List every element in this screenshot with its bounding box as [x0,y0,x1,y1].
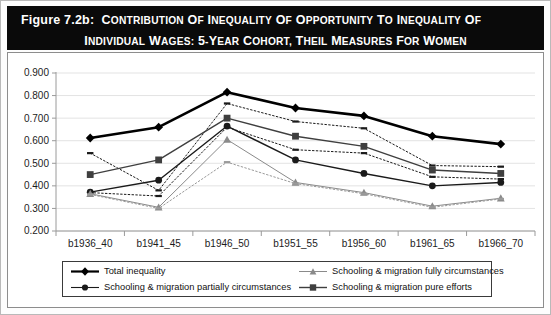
data-point-marker [428,132,437,141]
legend-item-partially-circumstances[interactable]: Schooling & migration partially circumst… [70,281,291,294]
data-point-marker [429,206,435,208]
data-point-marker [429,167,436,174]
data-point-marker [154,123,163,132]
data-point-marker [361,127,367,129]
data-point-marker [498,198,504,200]
figure-title-text-2: INDIVIDUAL WAGES: 5-YEAR COHORT, THEIL M… [84,34,466,48]
data-point-marker [155,177,162,184]
y-axis-tick-label: 0.700 [24,113,49,124]
legend-item-total-inequality[interactable]: Total inequality [70,265,291,278]
data-point-marker [155,195,161,197]
y-axis-tick-label: 0.600 [24,135,49,146]
legend-label-0: Total inequality [100,266,166,276]
y-axis-tick-label: 0.300 [24,203,49,214]
data-point-marker [224,102,230,104]
series-2 [87,115,504,178]
x-axis-tick-label: b1956_60 [342,238,387,249]
series-1 [87,102,504,191]
legend-column-left: Total inequality Schooling & migration p… [63,262,291,296]
x-axis-tick-label: b1936_40 [68,238,113,249]
y-axis-tick-label: 0.400 [24,180,49,191]
data-point-marker [291,104,300,113]
legend-label-2: Schooling & migration fully circumstance… [328,266,504,276]
data-point-marker [223,136,231,143]
data-point-marker [292,120,298,122]
data-point-marker [292,133,299,140]
legend-label-1: Schooling & migration partially circumst… [100,282,291,292]
y-axis-tick-label: 0.500 [24,158,49,169]
chart-legend: Total inequality Schooling & migration p… [62,261,492,297]
data-point-marker [360,111,369,120]
data-point-marker [87,152,93,154]
figure-title-text-1: CONTRIBUTION OF INEQUALITY OF OPPORTUNIT… [98,13,481,27]
circle-icon [70,282,100,293]
legend-item-fully-circumstances[interactable]: Schooling & migration fully circumstance… [298,265,504,278]
series-5 [86,136,504,211]
line-chart: 0.9000.8000.7000.6000.5000.4000.3000.200… [8,53,545,258]
data-point-marker [361,143,368,150]
figure-number-label: Figure 7.2b: [21,13,94,27]
data-point-marker [155,189,161,191]
data-point-marker [361,170,368,177]
figure-title-line-1: Figure 7.2b: CONTRIBUTION OF INEQUALITY … [17,10,534,31]
chart-panel: 0.9000.8000.7000.6000.5000.4000.3000.200… [7,52,544,308]
data-point-marker [429,176,435,178]
data-point-marker [497,170,504,177]
data-point-marker [429,164,435,166]
data-point-marker [497,179,504,186]
y-axis-tick-label: 0.800 [24,90,49,101]
square-icon [298,282,328,293]
data-point-marker [224,123,231,130]
data-point-marker [155,157,162,164]
figure-title-line-2: INDIVIDUAL WAGES: 5-YEAR COHORT, THEIL M… [17,31,534,52]
x-axis-tick-label: b1951_55 [273,238,318,249]
x-axis-tick-label: b1961_65 [410,238,455,249]
figure-container: Figure 7.2b: CONTRIBUTION OF INEQUALITY … [0,0,551,315]
data-point-marker [224,161,230,163]
data-point-marker [155,207,161,209]
x-axis-tick-label: b1946_50 [205,238,250,249]
data-point-marker [361,152,367,154]
triangle-icon [298,266,328,277]
x-axis-tick-label: b1966_70 [479,238,524,249]
diamond-icon [70,266,100,277]
data-point-marker [87,171,94,178]
data-point-marker [498,166,504,168]
data-point-marker [361,193,367,195]
data-point-marker [292,149,298,151]
data-point-marker [87,193,93,195]
data-point-marker [292,183,298,185]
data-point-marker [292,157,299,164]
x-axis-tick-label: b1941_45 [136,238,181,249]
data-point-marker [224,115,231,122]
legend-column-right: Schooling & migration fully circumstance… [291,262,504,296]
legend-item-pure-efforts[interactable]: Schooling & migration pure efforts [298,281,504,294]
y-axis-tick-label: 0.200 [24,225,49,236]
plot-area: 0.9000.8000.7000.6000.5000.4000.3000.200… [8,53,545,258]
legend-label-3: Schooling & migration pure efforts [328,282,472,292]
data-point-marker [429,182,436,189]
y-axis-tick-label: 0.900 [24,67,49,78]
figure-title-bar: Figure 7.2b: CONTRIBUTION OF INEQUALITY … [7,6,544,50]
